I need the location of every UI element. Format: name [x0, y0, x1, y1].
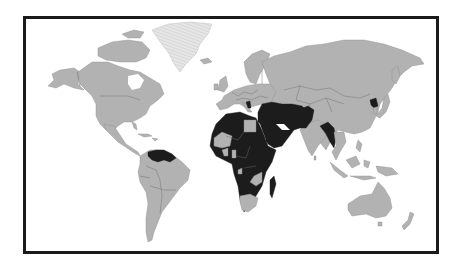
iceland	[200, 58, 212, 64]
north-america	[48, 30, 164, 156]
south-america-land	[138, 150, 190, 242]
madagascar	[270, 176, 276, 198]
greenland	[152, 22, 212, 72]
uk	[218, 76, 228, 92]
mexico-central-america	[104, 124, 140, 156]
venezuela-guianas	[148, 150, 176, 162]
asia	[256, 40, 424, 160]
map-frame	[23, 16, 439, 254]
egypt	[244, 120, 256, 132]
south-africa	[240, 194, 258, 212]
arctic-archipelago	[98, 40, 150, 62]
canada-usa	[78, 62, 164, 132]
south-america	[138, 150, 190, 242]
new-zealand	[402, 212, 414, 230]
world-map	[26, 19, 436, 251]
oceania	[348, 182, 414, 230]
europe	[214, 50, 276, 112]
australia	[348, 182, 392, 218]
